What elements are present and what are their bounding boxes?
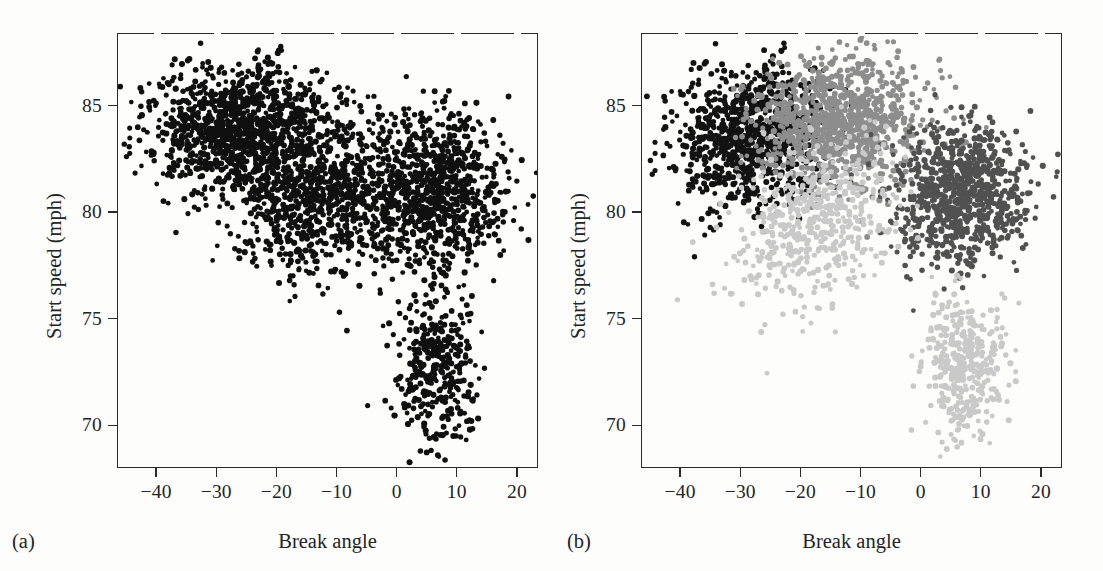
x-tick-label: −20 [261, 482, 292, 502]
x-tick-label: 0 [392, 482, 402, 502]
x-tick-mark [396, 468, 397, 477]
panel-label-a: (a) [12, 530, 35, 553]
y-tick-mark [108, 318, 117, 319]
y-tick-mark [632, 105, 641, 106]
top-frame-notch [514, 33, 521, 36]
plot-frame-b [641, 33, 1062, 468]
y-tick-label: 85 [57, 96, 102, 116]
x-tick-label: 10 [447, 482, 467, 502]
x-tick-mark [456, 468, 457, 477]
y-tick-label: 85 [581, 96, 626, 116]
y-tick-mark [632, 425, 641, 426]
x-tick-mark [276, 468, 277, 477]
x-tick-mark [336, 468, 337, 477]
x-axis-title-a: Break angle [278, 530, 376, 553]
x-tick-label: 20 [1031, 482, 1051, 502]
y-tick-mark [632, 211, 641, 212]
x-tick-mark [740, 468, 741, 477]
top-frame-notch [798, 33, 805, 36]
y-tick-mark [632, 318, 641, 319]
y-axis-title-a: Start speed (mph) [43, 193, 66, 339]
panel-b: −40−30−20−100102085807570 Break angle St… [551, 0, 1102, 571]
x-tick-label: −30 [725, 482, 756, 502]
x-tick-label: 0 [916, 482, 926, 502]
x-tick-mark [920, 468, 921, 477]
top-frame-notch [1038, 33, 1045, 36]
top-frame-notch [738, 33, 745, 36]
x-tick-mark [516, 468, 517, 477]
panel-a: −40−30−20−100102085807570 Break angle St… [0, 0, 551, 571]
x-tick-label: −20 [785, 482, 816, 502]
top-frame-notch [918, 33, 925, 36]
top-frame-notch [678, 33, 685, 36]
y-tick-label: 70 [57, 415, 102, 435]
scatter-series-all-pitches [118, 40, 537, 465]
x-axis-title-b: Break angle [802, 530, 900, 553]
top-frame-notch [978, 33, 985, 36]
plot-frame-a [117, 33, 538, 468]
x-tick-label: −40 [665, 482, 696, 502]
top-frame-notch [274, 33, 281, 36]
figure-container: −40−30−20−100102085807570 Break angle St… [0, 0, 1103, 571]
x-tick-label: −30 [201, 482, 232, 502]
top-frame-notch [154, 33, 161, 36]
top-frame-notch [394, 33, 401, 36]
x-tick-label: 20 [507, 482, 527, 502]
y-tick-label: 70 [581, 415, 626, 435]
x-tick-label: −10 [845, 482, 876, 502]
x-tick-mark [216, 468, 217, 477]
scatter-canvas-b [642, 34, 1061, 467]
y-tick-mark [108, 105, 117, 106]
x-tick-mark [860, 468, 861, 477]
x-tick-mark [679, 468, 680, 477]
panel-label-b: (b) [567, 530, 591, 553]
scatter-canvas-a [118, 34, 537, 467]
x-tick-label: 10 [971, 482, 991, 502]
x-tick-mark [980, 468, 981, 477]
x-tick-label: −10 [321, 482, 352, 502]
y-tick-mark [108, 425, 117, 426]
top-frame-notch [858, 33, 865, 36]
y-axis-title-b: Start speed (mph) [567, 193, 590, 339]
x-tick-mark [155, 468, 156, 477]
x-tick-mark [800, 468, 801, 477]
x-tick-mark [1040, 468, 1041, 477]
x-tick-label: −40 [141, 482, 172, 502]
top-frame-notch [334, 33, 341, 36]
top-frame-notch [214, 33, 221, 36]
top-frame-notch [454, 33, 461, 36]
y-tick-mark [108, 211, 117, 212]
